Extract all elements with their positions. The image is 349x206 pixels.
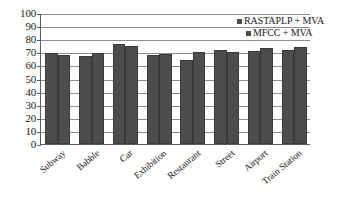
y-tick-label-90: 90: [2, 21, 36, 32]
y-tick-label-100: 100: [2, 8, 36, 19]
bar-airport-series-2: [260, 48, 273, 144]
y-tick-label-0: 0: [2, 139, 36, 150]
y-tick-0: [37, 145, 41, 146]
x-axis-tick-labels: SubwayBabbleCarExhibitionRestaurantStree…: [40, 148, 310, 206]
legend-swatch-mfcc-mva: [246, 31, 251, 36]
bar-street-series-1: [214, 50, 227, 144]
bar-babble-series-1: [79, 56, 92, 144]
y-tick-label-80: 80: [2, 34, 36, 45]
bar-chart: 0102030405060708090100 RASTAPLP + MVA MF…: [0, 0, 349, 206]
y-tick-label-10: 10: [2, 126, 36, 137]
bar-airport-series-1: [248, 51, 261, 144]
bar-subway-series-2: [58, 55, 71, 144]
y-tick-label-30: 30: [2, 100, 36, 111]
y-tick-label-60: 60: [2, 60, 36, 71]
y-tick-label-40: 40: [2, 87, 36, 98]
legend-swatch-rastaplp-mva: [237, 19, 242, 24]
bar-restaurant-series-2: [193, 52, 206, 144]
plot-area: RASTAPLP + MVA MFCC + MVA: [40, 14, 310, 145]
bar-exhibition-series-1: [147, 55, 160, 144]
legend-item-rastaplp-mva: RASTAPLP + MVA: [237, 15, 349, 27]
y-tick-label-20: 20: [2, 113, 36, 124]
bar-restaurant-series-1: [180, 60, 193, 144]
bar-exhibition-series-2: [159, 54, 172, 144]
legend-label-mfcc-mva: MFCC + MVA: [253, 28, 312, 38]
bar-street-series-2: [227, 52, 240, 144]
legend-label-rastaplp-mva: RASTAPLP + MVA: [244, 16, 324, 26]
bar-car-series-2: [125, 46, 138, 144]
chart-legend: RASTAPLP + MVA MFCC + MVA: [237, 15, 349, 39]
bar-subway-series-1: [45, 53, 58, 144]
bar-car-series-1: [113, 44, 126, 144]
legend-item-mfcc-mva: MFCC + MVA: [237, 27, 349, 39]
y-tick-label-50: 50: [2, 74, 36, 85]
bar-train-station-series-2: [294, 47, 307, 144]
bar-babble-series-2: [92, 53, 105, 144]
y-tick-label-70: 70: [2, 47, 36, 58]
bar-train-station-series-1: [282, 50, 295, 144]
